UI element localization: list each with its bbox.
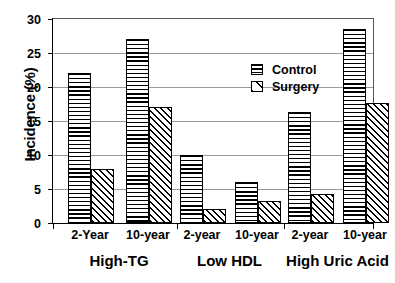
- legend-item-surgery: Surgery: [251, 79, 319, 94]
- plot-area: 051015202530 Control Surgery: [52, 18, 374, 224]
- y-tick-mark: 25: [48, 53, 53, 54]
- bar-surgery: [366, 103, 389, 223]
- bar-surgery: [311, 194, 334, 223]
- bar-control: [180, 155, 203, 223]
- legend-label-control: Control: [272, 63, 316, 77]
- legend-label-surgery: Surgery: [272, 80, 319, 94]
- legend-swatch-surgery-icon: [251, 81, 263, 92]
- x-axis-group-label: High-TG: [89, 252, 148, 269]
- bar-control: [235, 182, 258, 223]
- x-axis-period-label: 2-year: [292, 228, 329, 242]
- y-tick-label: 30: [27, 13, 41, 27]
- y-tick-label: 20: [27, 81, 41, 95]
- y-tick-mark: 20: [48, 87, 53, 88]
- bar-control: [343, 29, 366, 223]
- chart-legend: Control Surgery: [251, 62, 319, 96]
- y-tick-mark: 15: [48, 121, 53, 122]
- bar-chart: Incidence (%) 051015202530 Control Surge…: [0, 0, 395, 283]
- y-tick-label: 5: [34, 183, 41, 197]
- y-tick-label: 25: [27, 47, 41, 61]
- legend-item-control: Control: [251, 62, 319, 77]
- y-tick-label: 15: [27, 115, 41, 129]
- x-tick-mark: [177, 223, 178, 229]
- y-tick-mark: 10: [48, 155, 53, 156]
- bar-surgery: [149, 107, 172, 223]
- bar-control: [126, 39, 149, 223]
- x-axis-period-label: 10-year: [126, 228, 170, 242]
- gridline: [53, 121, 373, 122]
- x-axis-period-label: 10-year: [343, 228, 387, 242]
- bar-control: [68, 73, 91, 223]
- y-tick-label: 0: [34, 217, 41, 231]
- x-tick-mark: [53, 223, 54, 229]
- x-tick-mark: [284, 223, 285, 229]
- bar-surgery: [258, 201, 281, 223]
- x-axis-group-label: Low HDL: [197, 252, 262, 269]
- y-tick-mark: 5: [48, 189, 53, 190]
- y-tick-label: 10: [27, 149, 41, 163]
- x-axis-group-label: High Uric Acid: [286, 252, 389, 269]
- x-axis-period-label: 10-year: [235, 228, 279, 242]
- gridline: [53, 155, 373, 156]
- bar-surgery: [91, 169, 114, 223]
- y-tick-mark: 30: [48, 19, 53, 20]
- x-axis-period-label: 2-year: [184, 228, 221, 242]
- bar-control: [288, 112, 311, 223]
- x-axis-period-label: 2-Year: [71, 228, 109, 242]
- gridline: [53, 53, 373, 54]
- legend-swatch-control-icon: [251, 64, 263, 75]
- bar-surgery: [203, 209, 226, 223]
- gridline: [53, 87, 373, 88]
